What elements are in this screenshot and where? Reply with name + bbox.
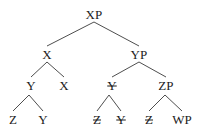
tree-branch — [29, 95, 43, 111]
tree-branch — [47, 62, 64, 77]
tree-branch — [149, 95, 165, 111]
tree-node: Z — [9, 113, 17, 126]
tree-node-struck: Y — [107, 79, 117, 92]
tree-node-struck: Y — [116, 113, 126, 126]
tree-node: Y — [26, 79, 36, 92]
tree-branch — [109, 95, 121, 111]
tree-branch — [112, 62, 139, 77]
tree-node: Y — [38, 113, 48, 126]
tree-node-struck: Z — [93, 113, 101, 126]
tree-branch — [94, 22, 139, 46]
tree-node: ZP — [158, 79, 173, 92]
tree-branch — [31, 62, 47, 77]
tree-branch — [47, 22, 94, 46]
edge-layer — [13, 22, 182, 111]
tree-node: WP — [172, 113, 192, 126]
tree-branch — [165, 95, 182, 111]
tree-node: X — [42, 48, 52, 61]
tree-node: XP — [86, 8, 103, 21]
tree-node: YP — [131, 48, 148, 61]
tree-node-struck: Z — [145, 113, 153, 126]
tree-branch — [97, 95, 109, 111]
tree-node: X — [59, 79, 69, 92]
tree-branch — [139, 62, 166, 77]
syntax-tree-diagram: XPXYPYXYZPZYZYZWP — [0, 0, 206, 136]
tree-branch — [13, 95, 29, 111]
